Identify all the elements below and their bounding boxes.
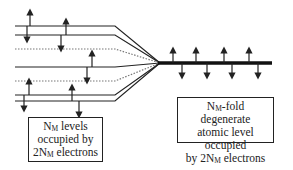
label-line-2: occupied by bbox=[32, 133, 99, 146]
level-3-dotted bbox=[15, 49, 160, 63]
text: N bbox=[207, 100, 215, 112]
split-levels bbox=[15, 26, 160, 101]
text: 2N bbox=[33, 146, 47, 158]
label-line-2: atomic level occupied bbox=[181, 126, 270, 152]
subscript: M bbox=[214, 156, 221, 165]
label-line-1: NM-fold degenerate bbox=[181, 100, 270, 126]
subscript: M bbox=[47, 150, 54, 159]
text: by 2N bbox=[186, 152, 214, 164]
text: electrons bbox=[54, 146, 98, 158]
label-line-1: NM levels bbox=[32, 120, 99, 133]
level-4 bbox=[15, 63, 160, 67]
label-line-3: 2NM electrons bbox=[32, 146, 99, 159]
text: electrons bbox=[221, 152, 265, 164]
split-level-electron-arrows bbox=[24, 12, 92, 115]
text: levels bbox=[58, 120, 88, 132]
atomic-level-label: NM-fold degenerate atomic level occupied… bbox=[177, 97, 274, 143]
split-levels-label: NM levels occupied by 2NM electrons bbox=[28, 117, 103, 162]
label-line-3: by 2NM electrons bbox=[181, 152, 270, 165]
subscript: M bbox=[215, 104, 222, 113]
level-1 bbox=[15, 26, 160, 63]
